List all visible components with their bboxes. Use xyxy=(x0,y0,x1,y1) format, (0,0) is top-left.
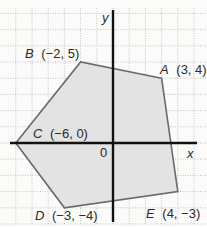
coordinate-plane: y x 0 A (3, 4) B (−2, 5) C (−6, 0) D (−3… xyxy=(0,0,207,227)
vertex-label-e: E (4, −3) xyxy=(146,206,200,221)
vertex-label-c: C (−6, 0) xyxy=(33,126,88,141)
origin-label: 0 xyxy=(100,145,107,160)
vertex-label-a: A (3, 4) xyxy=(159,62,207,77)
coordinate-plane-figure: y x 0 A (3, 4) B (−2, 5) C (−6, 0) D (−3… xyxy=(0,0,207,227)
x-axis-label: x xyxy=(186,146,194,161)
vertex-label-b: B (−2, 5) xyxy=(25,46,79,61)
vertex-label-d: D (−3, −4) xyxy=(35,208,98,223)
y-axis-label: y xyxy=(101,10,110,25)
